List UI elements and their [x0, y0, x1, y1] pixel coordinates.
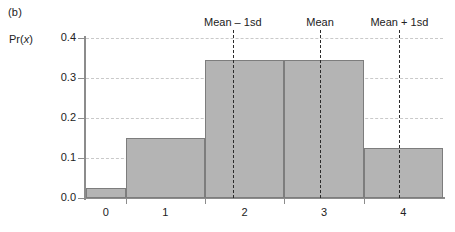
histogram-bar	[205, 60, 284, 198]
annotation-label: Mean	[306, 16, 334, 28]
y-axis-tick	[78, 118, 85, 119]
annotation-label: Mean + 1sd	[370, 16, 428, 28]
x-axis-tick-label: 1	[162, 207, 168, 218]
y-axis-tick-label: 0.4	[36, 32, 76, 43]
y-axis-tick-label: 0.2	[36, 112, 76, 123]
y-axis-tick	[78, 198, 85, 199]
y-axis-tick	[78, 158, 85, 159]
annotation-label: Mean – 1sd	[204, 16, 261, 28]
y-axis-tick-label: 0.0	[36, 192, 76, 203]
histogram-bar	[364, 148, 443, 198]
x-axis-tick-label: 2	[242, 207, 248, 218]
y-axis-label-suffix: )	[29, 33, 33, 45]
histogram-bar	[284, 60, 363, 198]
histogram-bar	[86, 188, 126, 198]
histogram-bar	[126, 138, 205, 198]
annotation-line	[399, 30, 400, 198]
y-axis-label: Pr(x)	[9, 33, 33, 45]
x-axis-tick	[364, 199, 365, 204]
gridline	[86, 38, 443, 39]
x-axis-tick-label: 0	[103, 207, 109, 218]
y-axis-tick-label: 0.3	[36, 72, 76, 83]
x-axis-tick	[126, 199, 127, 204]
x-axis-tick-label: 4	[400, 207, 406, 218]
y-axis-tick-label: 0.1	[36, 152, 76, 163]
x-axis-tick-label: 3	[321, 207, 327, 218]
histogram-figure: (b) Pr(x) 0.00.10.20.30.401234Mean – 1sd…	[0, 0, 455, 232]
y-axis-label-prefix: Pr(	[9, 33, 24, 45]
y-axis-tick	[78, 38, 85, 39]
y-axis-tick	[78, 78, 85, 79]
annotation-line	[233, 30, 234, 198]
panel-label: (b)	[8, 6, 22, 18]
annotation-line	[320, 30, 321, 198]
x-axis-tick	[284, 199, 285, 204]
x-axis-tick	[205, 199, 206, 204]
